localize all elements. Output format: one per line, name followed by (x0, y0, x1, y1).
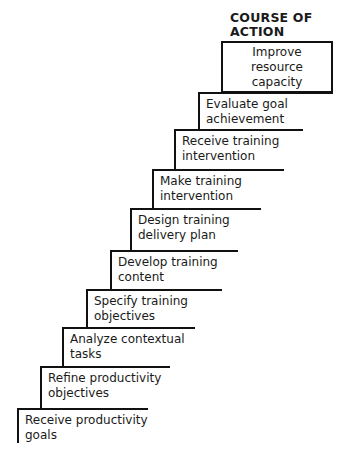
goal-box-label: Improve resource capacity (251, 45, 303, 90)
goal-box-improve-resource-capacity: Improve resource capacity (221, 41, 333, 93)
step-label: Specify training objectives (94, 294, 188, 324)
step-label: Evaluate goal achievement (206, 97, 288, 127)
step-label: Make training intervention (160, 174, 242, 204)
step-label: Receive productivity goals (25, 413, 148, 443)
diagram-heading: COURSE OF ACTION (230, 11, 312, 39)
step-label: Analyze contextual tasks (70, 332, 185, 362)
step-label: Develop training content (118, 255, 218, 285)
step-label: Receive training intervention (182, 134, 279, 164)
step-label: Design training delivery plan (138, 213, 230, 243)
step-label: Refine productivity objectives (48, 371, 161, 401)
